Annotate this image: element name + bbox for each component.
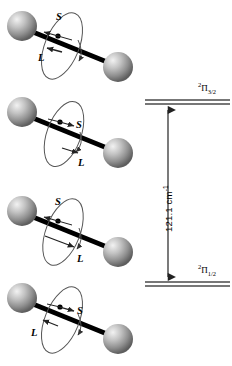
energy-level-graphic — [140, 0, 232, 366]
molecule-4-graphic: S L — [0, 276, 150, 366]
upper-level-j: 3/2 — [208, 88, 216, 95]
splitting-label: 121.1 cm-1 — [162, 185, 174, 232]
spin-label: S — [55, 196, 61, 207]
spin-label: S — [77, 305, 83, 316]
molecule-panel-3: S L — [0, 190, 150, 282]
atom-sphere-left — [7, 11, 37, 41]
orbital-label: L — [77, 157, 84, 168]
molecule-panel-1: S L — [0, 4, 150, 96]
upper-level-label: 2Π3/2 — [198, 82, 216, 95]
lower-level-label: 2Π1/2 — [198, 264, 216, 277]
orbit-ellipse — [33, 281, 91, 359]
atom-sphere-right — [103, 324, 133, 354]
splitting-unit: cm — [163, 191, 174, 204]
molecule-panel-2: S L — [0, 92, 150, 184]
molecule-2-graphic: S L — [0, 92, 150, 184]
molecule-1-graphic: S L — [0, 4, 150, 96]
spin-label: S — [76, 119, 82, 130]
energy-level-diagram: 2Π3/2 2Π1/2 121.1 cm-1 — [140, 0, 232, 366]
spin-vector-arrow — [60, 122, 74, 126]
figure-canvas: S L — [0, 0, 232, 366]
atom-sphere-right — [103, 52, 133, 82]
splitting-unit-exponent: -1 — [162, 185, 169, 191]
molecule-3-graphic: S L — [0, 190, 150, 282]
atom-sphere-left — [7, 283, 37, 313]
molecule-panel-4: S L — [0, 276, 150, 366]
atom-sphere-left — [7, 196, 37, 226]
orbital-vector-arrow — [47, 48, 62, 52]
atom-sphere-right — [103, 138, 133, 168]
bond-axis — [28, 302, 112, 336]
spin-vector-tail — [58, 36, 72, 40]
orbital-label: L — [76, 253, 83, 264]
bond-axis — [28, 116, 112, 150]
orbital-vector-arrow — [45, 236, 74, 247]
spin-label: S — [56, 11, 62, 22]
orbital-label: L — [30, 327, 37, 338]
orbital-vector-arrow — [43, 320, 58, 326]
spin-vector-tail — [58, 221, 72, 225]
atom-sphere-left — [7, 97, 37, 127]
spin-vector-arrow — [60, 307, 74, 311]
orbital-label: L — [37, 52, 44, 63]
bond-axis — [28, 215, 112, 249]
splitting-value: 121.1 — [163, 207, 174, 232]
lower-level-j: 1/2 — [208, 270, 216, 277]
atom-sphere-right — [103, 237, 133, 267]
